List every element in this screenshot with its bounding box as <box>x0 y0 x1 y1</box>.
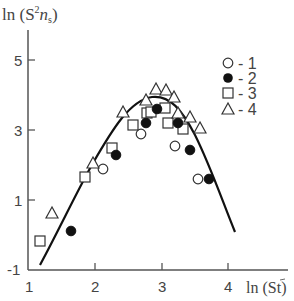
x-ticks: 1 2 3 4 <box>25 263 232 295</box>
open-triangle-icon <box>222 103 234 114</box>
filled-circle-icon <box>223 73 233 83</box>
legend-item-3: - 3 <box>223 85 257 102</box>
series-4-points <box>46 83 206 218</box>
series-3-points <box>35 103 188 246</box>
x-tick-4: 4 <box>224 278 232 295</box>
y-tick-1: 1 <box>14 192 22 209</box>
open-circle-icon <box>223 58 233 68</box>
y-tick-neg1: -1 <box>7 261 20 278</box>
x-tick-1: 1 <box>25 278 33 295</box>
legend: - 1 - 2 - 3 - 4 <box>222 55 257 118</box>
svg-text:- 3: - 3 <box>238 85 257 102</box>
y-ticks: 5 3 1 -1 <box>7 52 35 278</box>
x-tick-2: 2 <box>91 278 99 295</box>
chart-plot-area: ln (S2ns) 5 3 1 -1 1 2 3 4 ln (St) <box>0 0 294 301</box>
y-axis-label: ln (S2ns) <box>2 4 58 25</box>
y-tick-5: 5 <box>14 52 22 69</box>
legend-item-4: - 4 <box>222 101 257 118</box>
open-square-icon <box>223 88 233 98</box>
svg-text:- 4: - 4 <box>238 101 257 118</box>
x-axis-label: ln (St) <box>246 279 286 297</box>
y-tick-3: 3 <box>14 122 22 139</box>
x-tick-3: 3 <box>158 278 166 295</box>
